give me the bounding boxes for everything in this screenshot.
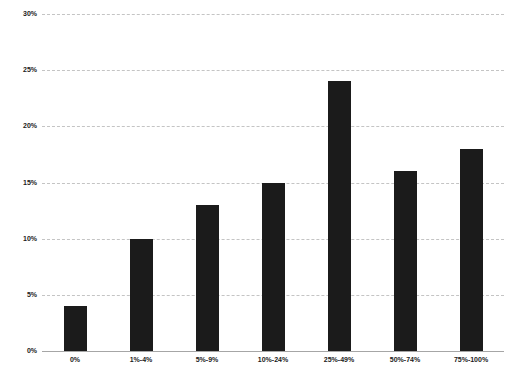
bar-0%: [64, 306, 87, 351]
bar-1%-4%: [130, 239, 153, 351]
gridline: [42, 70, 504, 71]
y-tick-label: 10%: [23, 235, 37, 242]
gridline: [42, 126, 504, 127]
bar-10%-24%: [262, 183, 285, 352]
y-tick-label: 0%: [27, 347, 37, 354]
gridline: [42, 14, 504, 15]
y-tick-label: 15%: [23, 179, 37, 186]
plot-area: 0%5%10%15%20%25%30%0%1%-4%5%-9%10%-24%25…: [42, 14, 504, 351]
y-tick-label: 25%: [23, 66, 37, 73]
x-tick-label: 10%-24%: [258, 356, 288, 363]
bar-5%-9%: [196, 205, 219, 351]
bar-75%-100%: [460, 149, 483, 351]
bar-50%-74%: [394, 171, 417, 351]
y-tick-label: 5%: [27, 291, 37, 298]
bar-25%-49%: [328, 81, 351, 351]
x-tick-label: 1%-4%: [130, 356, 153, 363]
x-tick-label: 0%: [70, 356, 80, 363]
y-tick-label: 20%: [23, 122, 37, 129]
x-axis-line: [42, 351, 504, 352]
x-tick-label: 5%-9%: [196, 356, 219, 363]
bar-chart: 0%5%10%15%20%25%30%0%1%-4%5%-9%10%-24%25…: [0, 0, 529, 385]
x-tick-label: 25%-49%: [324, 356, 354, 363]
x-tick-label: 50%-74%: [390, 356, 420, 363]
x-tick-label: 75%-100%: [454, 356, 488, 363]
y-tick-label: 30%: [23, 10, 37, 17]
